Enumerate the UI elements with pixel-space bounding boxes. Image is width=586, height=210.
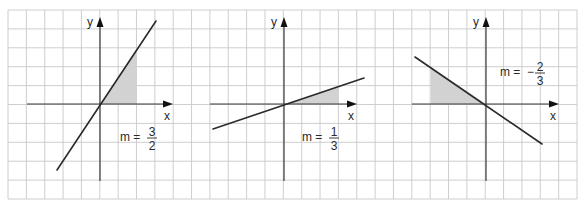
x-axis-label: x xyxy=(348,109,354,123)
x-axis-label: x xyxy=(550,109,556,123)
slope-denominator: 2 xyxy=(149,139,156,153)
function-line xyxy=(57,21,156,170)
slope-label: m =32 xyxy=(120,125,157,153)
y-axis-arrow-icon xyxy=(483,17,490,27)
slope-label: m =13 xyxy=(302,125,339,153)
graphs: xym =32xym =13xym =−23 xyxy=(27,15,559,181)
slope-prefix: m = xyxy=(500,65,520,79)
graph-negative: xym =−23 xyxy=(412,15,559,181)
y-axis-label: y xyxy=(87,15,93,29)
y-axis-arrow-icon xyxy=(97,17,104,27)
slope-prefix: m = xyxy=(120,130,140,144)
slope-numerator: 2 xyxy=(537,60,544,74)
x-axis-arrow-icon xyxy=(549,101,559,108)
slope-label: m =−23 xyxy=(500,60,545,88)
graph-positive-shallow: xym =13 xyxy=(210,15,364,181)
graph-positive-steep: xym =32 xyxy=(27,15,173,181)
slope-sign: − xyxy=(527,65,534,79)
x-axis-arrow-icon xyxy=(347,101,357,108)
slope-denominator: 3 xyxy=(331,139,338,153)
x-axis-label: x xyxy=(164,109,170,123)
slope-denominator: 3 xyxy=(537,74,544,88)
slope-prefix: m = xyxy=(302,130,322,144)
y-axis-arrow-icon xyxy=(281,17,288,27)
slope-numerator: 1 xyxy=(331,125,338,139)
y-axis-label: y xyxy=(271,15,277,29)
y-axis-label: y xyxy=(473,15,479,29)
x-axis-arrow-icon xyxy=(163,101,173,108)
slope-diagram: xym =32xym =13xym =−23 xyxy=(0,0,586,210)
slope-numerator: 3 xyxy=(149,125,156,139)
